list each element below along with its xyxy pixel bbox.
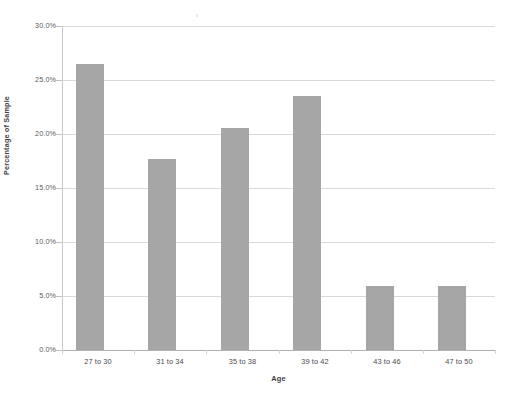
plot-area bbox=[62, 26, 495, 350]
y-tick-0: 0.0% bbox=[0, 345, 56, 355]
y-tick-25: 25.0% bbox=[0, 75, 56, 85]
x-tick-mark bbox=[62, 350, 63, 354]
gridline-20 bbox=[62, 134, 495, 135]
y-tick-5: 5.0% bbox=[0, 291, 56, 301]
bar-27-to-30[interactable] bbox=[76, 64, 104, 350]
y-tick-label: 20.0% bbox=[6, 129, 56, 138]
x-tick-mark bbox=[423, 350, 424, 354]
scan-artifact-speck bbox=[196, 14, 198, 17]
bar-43-to-46[interactable] bbox=[366, 286, 394, 350]
bar-31-to-34[interactable] bbox=[148, 159, 176, 350]
bar-39-to-42[interactable] bbox=[293, 96, 321, 350]
x-tick-label-3: 39 to 42 bbox=[279, 357, 351, 366]
gridline-10 bbox=[62, 242, 495, 243]
x-tick-mark bbox=[134, 350, 135, 354]
y-tick-label: 15.0% bbox=[6, 183, 56, 192]
bar-chart-screenshot: Percentage of Sample Age 30.0% 25.0% 20.… bbox=[0, 0, 515, 395]
bar-47-to-50[interactable] bbox=[438, 286, 466, 350]
y-tick-label: 0.0% bbox=[6, 345, 56, 354]
x-tick-mark bbox=[495, 350, 496, 354]
x-tick-label-2: 35 to 38 bbox=[206, 357, 279, 366]
x-tick-mark bbox=[351, 350, 352, 354]
x-axis-title: Age bbox=[62, 374, 495, 383]
y-tick-label: 30.0% bbox=[6, 21, 56, 30]
gridline-5 bbox=[62, 296, 495, 297]
y-tick-label: 10.0% bbox=[6, 237, 56, 246]
gridline-25 bbox=[62, 80, 495, 81]
y-tick-20: 20.0% bbox=[0, 129, 56, 139]
y-tick-15: 15.0% bbox=[0, 183, 56, 193]
x-tick-label-5: 47 to 50 bbox=[423, 357, 495, 366]
x-tick-mark bbox=[206, 350, 207, 354]
y-tick-30: 30.0% bbox=[0, 21, 56, 31]
x-tick-label-1: 31 to 34 bbox=[134, 357, 206, 366]
x-tick-label-0: 27 to 30 bbox=[62, 357, 134, 366]
y-tick-label: 25.0% bbox=[6, 75, 56, 84]
bar-35-to-38[interactable] bbox=[221, 128, 249, 350]
x-tick-mark bbox=[279, 350, 280, 354]
x-tick-label-4: 43 to 46 bbox=[351, 357, 423, 366]
gridline-30 bbox=[62, 26, 495, 27]
y-tick-10: 10.0% bbox=[0, 237, 56, 247]
gridline-15 bbox=[62, 188, 495, 189]
y-tick-label: 5.0% bbox=[6, 291, 56, 300]
